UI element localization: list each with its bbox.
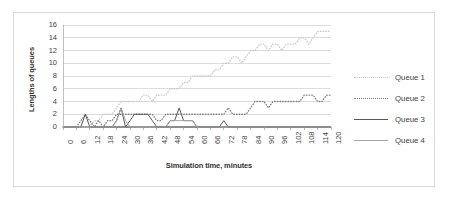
y-tick-label: 2 (41, 109, 57, 118)
legend-label: Queue 1 (388, 73, 425, 82)
x-tick-label: 42 (160, 136, 169, 144)
y-tick-label: 16 (41, 20, 57, 29)
x-axis-title: Simulation time, minutes (74, 161, 344, 170)
legend-item-queue-1[interactable]: Queue 1 (354, 67, 446, 88)
x-tick-label: 30 (133, 136, 142, 144)
x-tick-label: 24 (120, 136, 129, 144)
x-tick-label: 60 (200, 136, 209, 144)
x-tick-label: 0 (66, 140, 75, 144)
legend-swatch-icon (354, 116, 388, 124)
x-tick-label: 120 (334, 131, 343, 144)
x-tick-label: 108 (307, 131, 316, 144)
chart-figure: 0246810121416 06121824303642485460667278… (0, 0, 451, 200)
chart-legend: Queue 1Queue 2Queue 3Queue 4 (354, 67, 446, 151)
legend-label: Queue 4 (388, 136, 425, 145)
y-tick-label: 0 (41, 122, 57, 131)
legend-swatch-icon (354, 74, 388, 82)
y-tick-label: 14 (41, 33, 57, 42)
legend-swatch-icon (354, 95, 388, 103)
x-tick-label: 72 (227, 136, 236, 144)
x-tick-label: 114 (321, 132, 330, 144)
x-tick-label: 66 (213, 136, 222, 144)
x-tick-label: 102 (294, 131, 303, 144)
chart-plot-frame: 0246810121416 06121824303642485460667278… (13, 12, 435, 187)
legend-swatch-icon (354, 137, 388, 145)
x-tick-label: 84 (254, 136, 263, 144)
y-tick-label: 4 (41, 97, 57, 106)
legend-label: Queue 3 (388, 115, 425, 124)
x-tick-label: 96 (280, 136, 289, 144)
legend-item-queue-4[interactable]: Queue 4 (354, 130, 446, 151)
x-tick-label: 12 (93, 136, 102, 144)
series-queue-1 (63, 31, 331, 127)
y-tick-label: 10 (41, 58, 57, 67)
y-tick-label: 6 (41, 84, 57, 93)
x-tick-label: 54 (187, 136, 196, 144)
series-lines (63, 31, 331, 127)
x-tick-label: 36 (146, 136, 155, 144)
y-axis-title: Lengths of queues (27, 35, 36, 125)
series-queue-4 (63, 108, 331, 127)
y-tick-label: 8 (41, 71, 57, 80)
x-tick-label: 78 (240, 136, 249, 144)
x-tick-label: 48 (173, 136, 182, 144)
legend-label: Queue 2 (388, 94, 425, 103)
series-queue-3 (63, 108, 331, 127)
legend-item-queue-2[interactable]: Queue 2 (354, 88, 446, 109)
y-tick-label: 12 (41, 46, 57, 55)
legend-item-queue-3[interactable]: Queue 3 (354, 109, 446, 130)
x-tick-label: 6 (79, 140, 88, 144)
series-queue-2 (63, 95, 331, 127)
x-tick-label: 18 (106, 136, 115, 144)
x-tick-label: 90 (267, 136, 276, 144)
